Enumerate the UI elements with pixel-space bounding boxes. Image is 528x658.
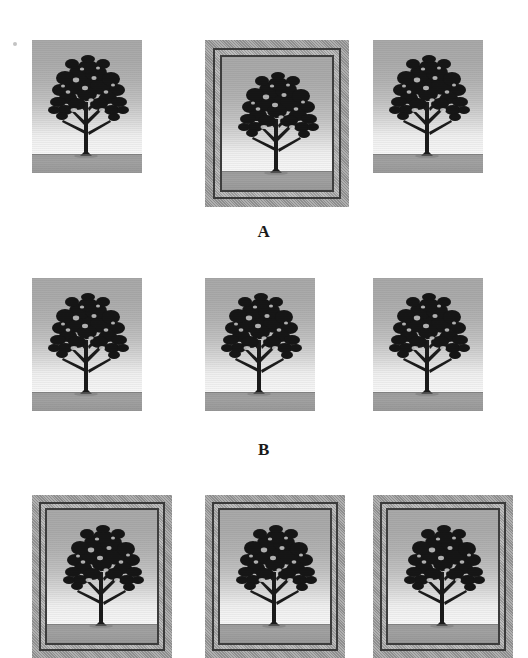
picture-frame	[205, 495, 345, 658]
picture-frame	[32, 495, 172, 658]
tree-photo	[47, 510, 157, 643]
panel-b1	[32, 278, 142, 411]
tree-photo	[373, 40, 483, 173]
frame-inner-band	[380, 502, 506, 651]
tree-photo	[32, 278, 142, 411]
frame-inner-line	[386, 508, 500, 645]
frame-inner-band	[39, 502, 165, 651]
panel-b3	[373, 278, 483, 411]
figure-row-b	[0, 278, 528, 428]
tree-icon	[205, 278, 315, 411]
tree-icon	[32, 278, 142, 411]
tree-photo	[220, 510, 330, 643]
tree-icon	[220, 510, 330, 643]
figure-row-c	[0, 495, 528, 641]
figure-row-a	[0, 40, 528, 220]
tree-photo	[222, 57, 332, 190]
panel-c3	[373, 495, 513, 658]
frame-inner-band	[212, 502, 338, 651]
tree-icon	[373, 278, 483, 411]
tree-icon	[222, 57, 332, 190]
frame-inner-line	[220, 55, 334, 192]
panel-b2	[205, 278, 315, 411]
tree-icon	[32, 40, 142, 173]
tree-photo	[373, 278, 483, 411]
panel-a1	[32, 40, 142, 173]
row-label-a: A	[0, 222, 528, 242]
tree-icon	[373, 40, 483, 173]
tree-icon	[47, 510, 157, 643]
panel-a3	[373, 40, 483, 173]
frame-inner-line	[45, 508, 159, 645]
tree-photo	[205, 278, 315, 411]
picture-frame	[373, 495, 513, 658]
frame-inner-line	[218, 508, 332, 645]
panel-c2	[205, 495, 345, 658]
tree-photo	[32, 40, 142, 173]
frame-inner-band	[213, 48, 341, 199]
tree-icon	[388, 510, 498, 643]
picture-frame	[205, 40, 349, 207]
row-label-b: B	[0, 440, 528, 460]
panel-c1	[32, 495, 172, 658]
tree-photo	[388, 510, 498, 643]
panel-a2	[205, 40, 349, 207]
